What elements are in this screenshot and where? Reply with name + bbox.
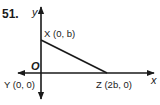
origin-label: O xyxy=(31,60,40,72)
point-z-label: Z (2b, 0) xyxy=(96,79,132,90)
problem-number: 51. xyxy=(2,7,19,21)
point-x-label: X (0, b) xyxy=(44,28,75,39)
coordinate-diagram: 51. y x O X (0, b) Y (0, 0) Z (2b, 0) xyxy=(0,0,160,105)
x-axis-label: x xyxy=(150,74,157,86)
point-y-label: Y (0, 0) xyxy=(4,79,35,90)
segment-xz xyxy=(41,40,107,73)
y-axis-label: y xyxy=(31,6,39,18)
